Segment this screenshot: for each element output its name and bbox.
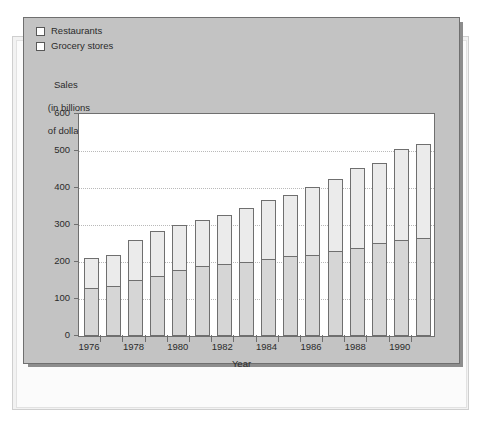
x-axis-label-1978: 1978 <box>123 341 144 352</box>
bar-segment-grocery-stores-1979[interactable] <box>150 277 165 336</box>
x-axis-label-1980: 1980 <box>167 341 188 352</box>
bar-segment-restaurants-1985[interactable] <box>283 195 298 257</box>
bar-segment-grocery-stores-1977[interactable] <box>106 287 121 336</box>
bar-segment-restaurants-1978[interactable] <box>128 240 143 281</box>
bar-segment-grocery-stores-1978[interactable] <box>128 281 143 336</box>
bar-segment-grocery-stores-1988[interactable] <box>350 249 365 336</box>
bar-segment-grocery-stores-1990[interactable] <box>394 241 409 336</box>
bar-1991[interactable] <box>416 144 431 336</box>
bar-segment-restaurants-1980[interactable] <box>172 225 187 271</box>
bar-segment-grocery-stores-1980[interactable] <box>172 271 187 336</box>
bar-segment-grocery-stores-1981[interactable] <box>195 267 210 336</box>
bar-segment-grocery-stores-1989[interactable] <box>372 244 387 337</box>
plot-area <box>78 113 435 337</box>
bar-1980[interactable] <box>172 225 187 336</box>
plot-wrapper: 0100200300400500600 19761978198019821984… <box>24 18 459 363</box>
bar-segment-grocery-stores-1984[interactable] <box>261 260 276 336</box>
bar-1989[interactable] <box>372 163 387 336</box>
bar-segment-grocery-stores-1987[interactable] <box>328 252 343 336</box>
x-axis-label-1982: 1982 <box>212 341 233 352</box>
bar-segment-grocery-stores-1991[interactable] <box>416 239 431 336</box>
chart-page: Restaurants Grocery stores Sales (in bil… <box>0 0 487 427</box>
x-axis-label-1976: 1976 <box>79 341 100 352</box>
bar-segment-restaurants-1988[interactable] <box>350 168 365 248</box>
bar-1978[interactable] <box>128 240 143 336</box>
chart-card: Restaurants Grocery stores Sales (in bil… <box>23 17 460 364</box>
bar-segment-grocery-stores-1983[interactable] <box>239 263 254 336</box>
bar-segment-grocery-stores-1986[interactable] <box>305 256 320 336</box>
x-axis-label-1986: 1986 <box>300 341 321 352</box>
bar-1987[interactable] <box>328 179 343 336</box>
bar-segment-restaurants-1990[interactable] <box>394 149 409 240</box>
x-axis-label-1988: 1988 <box>345 341 366 352</box>
x-axis-label-1990: 1990 <box>389 341 410 352</box>
y-tick-label-500: 500 <box>24 144 70 155</box>
bar-segment-restaurants-1989[interactable] <box>372 163 387 243</box>
bar-segment-restaurants-1986[interactable] <box>305 187 320 256</box>
x-axis-title: Year <box>24 358 459 369</box>
bar-1986[interactable] <box>305 187 320 336</box>
bar-1981[interactable] <box>195 220 210 336</box>
y-tick-label-400: 400 <box>24 181 70 192</box>
bar-1979[interactable] <box>150 231 165 336</box>
bar-1984[interactable] <box>261 200 276 336</box>
y-tick-label-200: 200 <box>24 255 70 266</box>
bar-1983[interactable] <box>239 208 254 336</box>
bar-segment-grocery-stores-1982[interactable] <box>217 265 232 336</box>
bar-segment-restaurants-1981[interactable] <box>195 220 210 267</box>
bar-segment-restaurants-1984[interactable] <box>261 200 276 260</box>
y-tick-label-300: 300 <box>24 218 70 229</box>
y-tick-label-0: 0 <box>24 329 70 340</box>
bar-series-group <box>79 114 434 336</box>
y-tick-label-600: 600 <box>24 107 70 118</box>
bar-1982[interactable] <box>217 215 232 336</box>
bar-segment-restaurants-1983[interactable] <box>239 208 254 263</box>
bar-segment-grocery-stores-1976[interactable] <box>84 289 99 336</box>
x-axis-labels: 19761978198019821984198619881990 <box>78 341 433 355</box>
bar-1976[interactable] <box>84 258 99 336</box>
bar-1988[interactable] <box>350 168 365 336</box>
bar-segment-restaurants-1987[interactable] <box>328 179 343 252</box>
y-tick-label-100: 100 <box>24 292 70 303</box>
bar-1977[interactable] <box>106 255 121 336</box>
bar-segment-grocery-stores-1985[interactable] <box>283 257 298 336</box>
bar-1985[interactable] <box>283 195 298 336</box>
bar-segment-restaurants-1979[interactable] <box>150 231 165 277</box>
bar-segment-restaurants-1977[interactable] <box>106 255 121 287</box>
bar-segment-restaurants-1982[interactable] <box>217 215 232 265</box>
bar-segment-restaurants-1991[interactable] <box>416 144 431 239</box>
bar-1990[interactable] <box>394 149 409 336</box>
x-axis-label-1984: 1984 <box>256 341 277 352</box>
bar-segment-restaurants-1976[interactable] <box>84 258 99 289</box>
